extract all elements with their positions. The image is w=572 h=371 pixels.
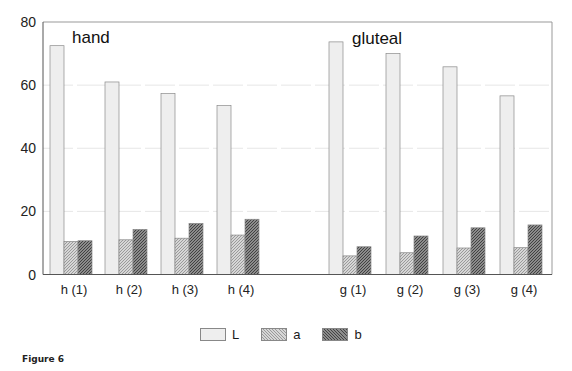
bar-b-h4 <box>245 219 259 274</box>
legend-item-L: L <box>200 327 239 342</box>
legend-label-L: L <box>232 327 239 342</box>
x-tick-label: g (2) <box>397 282 424 297</box>
bar-b-g1 <box>357 247 371 275</box>
bar-L-g2 <box>386 54 400 275</box>
bar-L-h3 <box>161 94 175 275</box>
y-axis-ticks: 020406080 <box>20 14 36 283</box>
bar-b-g2 <box>414 236 428 275</box>
bar-L-g4 <box>500 96 514 275</box>
bar-a-h3 <box>175 238 189 274</box>
bar-b-h3 <box>189 223 203 274</box>
x-tick-label: h (2) <box>116 282 143 297</box>
x-tick-label: g (1) <box>340 282 367 297</box>
annotation-hand: hand <box>72 28 110 47</box>
legend-swatch-a <box>261 328 287 341</box>
y-tick-label: 80 <box>20 14 36 30</box>
y-tick-label: 40 <box>20 140 36 156</box>
bar-a-g3 <box>457 248 471 275</box>
legend-item-b: b <box>322 327 361 342</box>
bar-L-g1 <box>329 42 343 275</box>
legend-item-a: a <box>261 327 300 342</box>
bar-b-h1 <box>78 241 92 275</box>
x-tick-label: h (3) <box>172 282 199 297</box>
annotation-gluteal: gluteal <box>352 29 402 48</box>
x-axis-labels: h (1)h (2)h (3)h (4)g (1)g (2)g (3)g (4) <box>61 282 538 297</box>
y-tick-label: 0 <box>28 267 36 283</box>
legend-swatch-L <box>200 328 226 341</box>
bar-a-g2 <box>400 253 414 275</box>
x-tick-label: h (1) <box>61 282 88 297</box>
bar-a-h1 <box>64 241 78 274</box>
bar-a-g4 <box>514 248 528 275</box>
bar-L-h4 <box>217 106 231 275</box>
x-tick-label: g (3) <box>454 282 481 297</box>
group-annotations: handgluteal <box>72 28 402 48</box>
bar-L-h2 <box>105 82 119 275</box>
bar-b-h2 <box>133 229 147 274</box>
legend-label-b: b <box>354 327 361 342</box>
x-tick-label: h (4) <box>228 282 255 297</box>
legend-label-a: a <box>293 327 300 342</box>
bar-b-g3 <box>471 228 485 275</box>
legend-swatch-b <box>322 328 348 341</box>
y-tick-label: 20 <box>20 203 36 219</box>
y-tick-label: 60 <box>20 77 36 93</box>
bar-a-h4 <box>231 235 245 274</box>
bars <box>50 42 542 275</box>
x-tick-label: g (4) <box>511 282 538 297</box>
bar-chart: 020406080 h (1)h (2)h (3)h (4)g (1)g (2)… <box>0 0 572 320</box>
bar-L-h1 <box>50 46 64 275</box>
bar-b-g4 <box>528 225 542 275</box>
bar-L-g3 <box>443 67 457 275</box>
bar-a-g1 <box>343 256 357 275</box>
legend: L a b <box>200 327 384 342</box>
bar-a-h2 <box>119 240 133 275</box>
figure-label: Figure 6 <box>22 354 64 364</box>
